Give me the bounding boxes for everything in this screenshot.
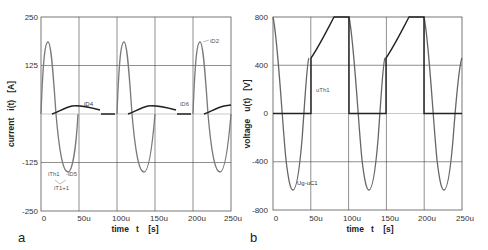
annot-iT1: iT1+1 bbox=[54, 185, 70, 191]
chart-a-xtick-50u: 50u bbox=[77, 214, 90, 223]
annot-ug-uc1: Ug-uC1 bbox=[297, 180, 318, 186]
annot-iD5: -iD5 bbox=[66, 171, 78, 177]
chart-b-ytick-800: 800 bbox=[255, 13, 269, 22]
annot-iD2: iD2 bbox=[210, 38, 220, 44]
chart-a-xlabel: time t [s] bbox=[111, 224, 158, 234]
chart-b-xtick-50u: 50u bbox=[309, 214, 322, 223]
annot-iD4: iD4 bbox=[84, 101, 94, 107]
chart-a: iD2 iD4 iD6 iTh1 -iD5 iT1+1 250 125 -125… bbox=[6, 13, 242, 245]
chart-b-series-ug-uc1 bbox=[273, 17, 462, 190]
panel-label-b: b bbox=[250, 230, 257, 245]
chart-b-ytick-neg400: -400 bbox=[252, 157, 269, 166]
chart-a-xtick-100u: 100u bbox=[112, 214, 130, 223]
chart-b-xtick-250u: 250u bbox=[456, 214, 474, 223]
chart-b-ytick-400: 400 bbox=[255, 61, 269, 70]
chart-a-xtick-150u: 150u bbox=[150, 214, 168, 223]
panel-label-a: a bbox=[18, 230, 26, 245]
chart-b-xtick-200u: 200u bbox=[418, 214, 436, 223]
chart-b-xtick-0: 0 bbox=[274, 214, 279, 223]
chart-b: uTh1 Ug-uC1 800 400 0 -400 -800 0 50u 10… bbox=[242, 13, 474, 245]
chart-a-xtick-250u: 250u bbox=[224, 214, 242, 223]
chart-b-xlabel: time t [s] bbox=[346, 224, 393, 234]
chart-a-ytick-neg250: -250 bbox=[22, 207, 39, 216]
chart-a-ytick-neg125: -125 bbox=[22, 158, 39, 167]
chart-b-ylabel: voltage u(t) [V] bbox=[242, 79, 252, 148]
annot-iD6: iD6 bbox=[180, 101, 190, 107]
chart-a-xtick-200u: 200u bbox=[188, 214, 206, 223]
chart-a-ylabel: current i(t) [A] bbox=[6, 81, 16, 147]
figure: iD2 iD4 iD6 iTh1 -iD5 iT1+1 250 125 -125… bbox=[0, 0, 488, 250]
chart-a-ytick-125: 125 bbox=[25, 61, 39, 70]
chart-b-ytick-neg800: -800 bbox=[252, 206, 269, 215]
chart-b-ytick-0: 0 bbox=[264, 109, 269, 118]
chart-b-xtick-100u: 100u bbox=[343, 214, 361, 223]
annot-uTh1: uTh1 bbox=[316, 87, 330, 93]
chart-b-xtick-150u: 150u bbox=[381, 214, 399, 223]
annot-iTh1: iTh1 bbox=[48, 171, 60, 177]
chart-a-ytick-250: 250 bbox=[25, 13, 39, 22]
chart-a-xtick-0: 0 bbox=[42, 214, 47, 223]
